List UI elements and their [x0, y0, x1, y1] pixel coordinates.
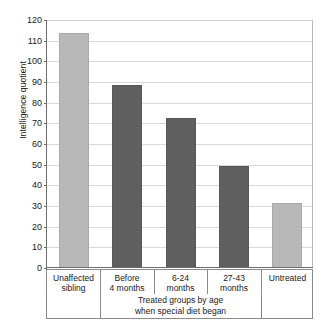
plot-area: 1201101009080706050403020100	[46, 20, 313, 268]
y-axis-tick-label: 70	[32, 118, 47, 128]
x-axis-label-line-1: Untreated	[261, 273, 314, 283]
y-axis-title: Intelligence quotient	[18, 35, 28, 165]
y-axis-tick-label: 10	[32, 242, 47, 252]
x-axis-label-cell: 27-43months	[207, 270, 261, 293]
bar	[166, 118, 196, 267]
x-axis-label-line-1: Unaffected	[47, 273, 100, 283]
x-axis-label-cell: Unaffectedsibling	[47, 270, 100, 293]
x-axis-label-line-1: 27-43	[207, 273, 261, 283]
y-axis-tick-label: 50	[32, 160, 47, 170]
treated-groups-caption: Treated groups by age when special diet …	[100, 295, 261, 316]
caption-line-2: when special diet began	[100, 306, 261, 317]
bar	[272, 203, 302, 267]
bar-chart: Intelligence quotient 120110100908070605…	[0, 0, 331, 326]
x-axis-label-line-2: sibling	[47, 283, 100, 293]
x-axis-label-line-2: months	[207, 283, 261, 293]
x-axis-label-line-1: Before	[100, 273, 154, 283]
bar	[219, 166, 249, 267]
y-axis-tick-label: 40	[32, 180, 47, 190]
bar	[59, 33, 89, 267]
x-axis-label-cell: Before4 months	[100, 270, 154, 293]
label-table-inner-separator	[154, 270, 155, 294]
x-axis-label-cell: 6-24months	[154, 270, 207, 293]
label-table-separator	[261, 270, 262, 318]
x-axis-label-line-2: 4 months	[100, 283, 154, 293]
label-table-inner-separator	[207, 270, 208, 294]
gridline	[47, 20, 313, 21]
caption-line-1: Treated groups by age	[100, 295, 261, 306]
x-axis-label-line-2: months	[154, 283, 207, 293]
x-axis-label-cell: Untreated	[261, 270, 314, 283]
y-axis-tick-label: 90	[32, 77, 47, 87]
y-axis-tick-label: 80	[32, 98, 47, 108]
y-axis-tick-label: 120	[27, 15, 47, 25]
y-axis-tick-label: 60	[32, 139, 47, 149]
x-axis-label-table: UnaffectedsiblingBefore4 months6-24month…	[46, 269, 313, 319]
y-axis-tick-label: 110	[28, 36, 47, 46]
bar	[112, 85, 142, 267]
y-axis-tick-label: 20	[32, 222, 47, 232]
x-axis-label-line-1: 6-24	[154, 273, 207, 283]
y-axis-tick-label: 100	[27, 56, 47, 66]
y-axis-tick-label: 30	[32, 201, 47, 211]
